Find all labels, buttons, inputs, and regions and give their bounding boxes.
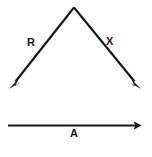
vector-r [9,8,74,90]
vector-x-shaft [74,8,135,82]
vector-diagram: R X A [0,0,152,157]
vector-r-arrowhead [9,79,21,89]
vector-label-r: R [27,37,35,48]
vector-r-shaft [16,8,75,82]
vector-x [74,8,141,90]
vector-label-a: A [70,128,78,139]
vector-label-x: X [106,36,113,47]
